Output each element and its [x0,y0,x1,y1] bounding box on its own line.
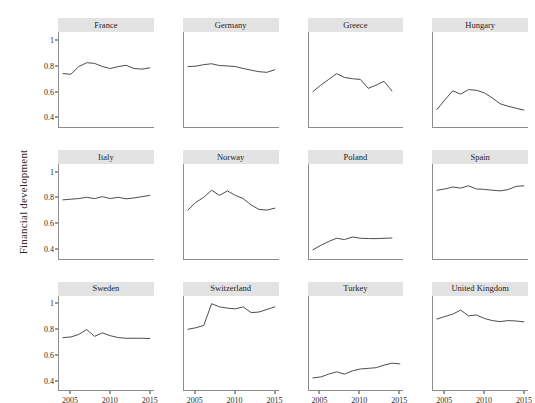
plot-area [58,32,154,128]
faceted-line-chart: Financial development France10.80.60.420… [0,0,535,403]
x-axis-ticks: 200520102015 [58,391,154,403]
x-tick-mark [484,391,485,394]
x-tick-mark [274,391,275,394]
facet-strip-label: Turkey [308,282,404,296]
facet-panel-france: France10.80.60.4200520102015 [34,18,154,146]
facet-panel-turkey: Turkey10.80.60.4200520102015 [284,282,404,403]
plot-area [432,32,528,128]
plot-area [58,296,154,392]
x-axis-ticks: 200520102015 [308,391,404,403]
facet-strip-label: United Kingdom [432,282,528,296]
facet-panel-germany: Germany10.80.60.4200520102015 [159,18,279,146]
facet-strip-label: Switzerland [183,282,279,296]
x-tick-label: 2010 [476,396,492,403]
plot-area [308,32,404,128]
series-line [437,310,524,322]
y-tick-label: 0.4 [44,245,54,254]
series-line [188,190,275,210]
x-tick-mark [359,391,360,394]
x-tick-label: 2010 [102,396,118,403]
x-tick-label: 2010 [227,396,243,403]
plot-area [308,164,404,260]
facet-strip-label: Sweden [58,282,154,296]
x-tick-mark [234,391,235,394]
facet-strip-label: Poland [308,150,404,164]
series-line [437,186,524,191]
x-tick-mark [319,391,320,394]
facet-strip-label: Germany [183,18,279,32]
series-line [312,74,391,92]
facet-panel-poland: Poland10.80.60.4200520102015 [284,150,404,278]
facet-strip-label: Italy [58,150,154,164]
facet-panel-sweden: Sweden10.80.60.4200520102015 [34,282,154,403]
facet-panel-united-kingdom: United Kingdom10.80.60.4200520102015 [408,282,528,403]
y-tick-label: 1 [50,35,54,44]
x-tick-label: 2005 [187,396,203,403]
facet-strip-label: Hungary [432,18,528,32]
plot-area [183,32,279,128]
series-line [63,63,150,75]
x-tick-mark [69,391,70,394]
series-line [188,303,275,329]
y-tick-label: 0.6 [44,87,54,96]
series-line [63,195,150,199]
y-axis-title-label: Financial development [17,149,29,254]
y-tick-label: 0.4 [44,376,54,385]
x-tick-label: 2005 [62,396,78,403]
facet-panel-spain: Spain10.80.60.4200520102015 [408,150,528,278]
plot-area [183,296,279,392]
y-tick-label: 0.6 [44,351,54,360]
x-axis-ticks: 200520102015 [183,391,279,403]
x-tick-label: 2005 [311,396,327,403]
x-tick-mark [399,391,400,394]
x-tick-mark [444,391,445,394]
y-axis-ticks: 10.80.60.4 [34,32,58,128]
facet-panel-italy: Italy10.80.60.4200520102015 [34,150,154,278]
series-line [188,64,275,73]
y-tick-label: 0.6 [44,219,54,228]
facet-grid: France10.80.60.4200520102015Germany10.80… [34,18,528,390]
series-line [437,90,524,110]
facet-panel-hungary: Hungary10.80.60.4200520102015 [408,18,528,146]
x-tick-label: 2015 [267,396,283,403]
facet-strip-label: Greece [308,18,404,32]
x-tick-mark [194,391,195,394]
y-tick-label: 0.8 [44,325,54,334]
y-axis-title: Financial development [14,0,32,403]
plot-area [58,164,154,260]
x-tick-mark [524,391,525,394]
x-tick-label: 2005 [436,396,452,403]
x-tick-mark [109,391,110,394]
facet-strip-label: France [58,18,154,32]
x-axis-ticks: 200520102015 [432,391,528,403]
plot-area [432,296,528,392]
x-tick-label: 2010 [351,396,367,403]
series-line [312,237,391,250]
y-tick-label: 1 [50,299,54,308]
y-tick-label: 0.4 [44,113,54,122]
plot-area [432,164,528,260]
plot-area [308,296,404,392]
facet-strip-label: Norway [183,150,279,164]
y-tick-label: 0.8 [44,61,54,70]
facet-strip-label: Spain [432,150,528,164]
y-axis-ticks: 10.80.60.4 [34,296,58,392]
x-tick-label: 2015 [516,396,532,403]
x-tick-label: 2015 [391,396,407,403]
x-tick-label: 2015 [142,396,158,403]
series-line [63,329,150,338]
facet-panel-greece: Greece10.80.60.4200520102015 [284,18,404,146]
series-line [312,363,399,378]
plot-area [183,164,279,260]
y-tick-label: 0.8 [44,193,54,202]
facet-panel-norway: Norway10.80.60.4200520102015 [159,150,279,278]
y-axis-ticks: 10.80.60.4 [34,164,58,260]
x-tick-mark [149,391,150,394]
facet-panel-switzerland: Switzerland10.80.60.4200520102015 [159,282,279,403]
y-tick-label: 1 [50,167,54,176]
